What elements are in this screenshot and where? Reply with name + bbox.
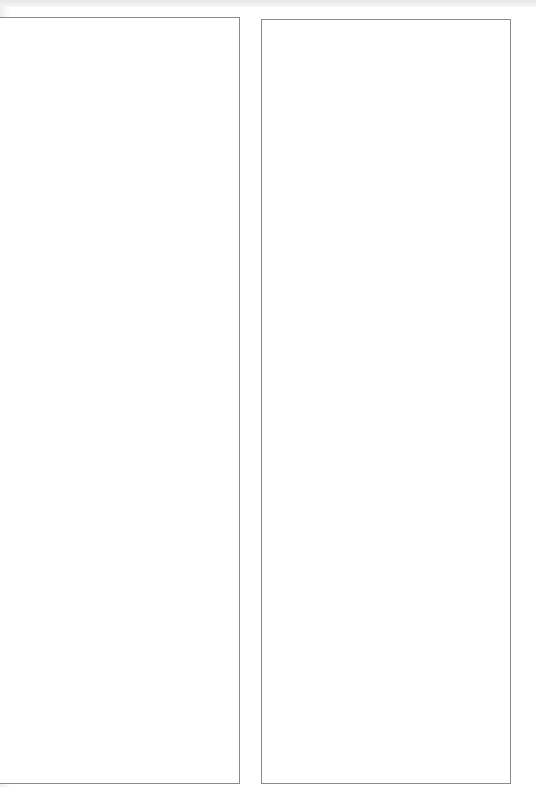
left-panel	[0, 17, 240, 784]
right-panel	[261, 19, 511, 784]
scan-top-edge	[0, 0, 536, 7]
